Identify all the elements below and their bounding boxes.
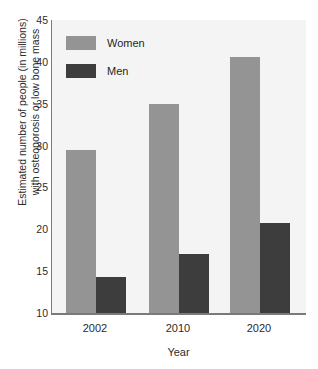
legend: Women Men <box>66 36 145 78</box>
bar-group-2020 <box>224 20 296 313</box>
bar-men-2020 <box>260 223 290 313</box>
y-tick-label-15: 15 <box>26 266 48 276</box>
x-tick-label-2002: 2002 <box>60 322 130 334</box>
x-axis-line <box>51 313 306 315</box>
y-tick-label-45: 45 <box>26 15 48 25</box>
y-tick-label-10: 10 <box>26 308 48 318</box>
y-tick-label-30: 30 <box>26 141 48 151</box>
bar-chart: Estimated number of people (in millions)… <box>0 0 318 369</box>
x-tick-label-2010: 2010 <box>143 322 213 334</box>
bar-men-2002 <box>96 277 126 313</box>
x-axis-title: Year <box>51 346 306 358</box>
legend-label-women: Women <box>107 37 145 49</box>
y-tick-label-20: 20 <box>26 224 48 234</box>
bar-men-2010 <box>179 254 209 313</box>
legend-swatch-men-icon <box>66 64 96 78</box>
legend-entry-men: Men <box>66 64 145 78</box>
y-tick-label-35: 35 <box>26 99 48 109</box>
x-tick-label-2020: 2020 <box>224 322 294 334</box>
bar-women-2020 <box>230 57 260 313</box>
bar-women-2002 <box>66 150 96 313</box>
legend-entry-women: Women <box>66 36 145 50</box>
legend-swatch-women-icon <box>66 36 96 50</box>
legend-label-men: Men <box>107 65 128 77</box>
bar-women-2010 <box>149 104 179 313</box>
bar-group-2010 <box>143 20 215 313</box>
y-tick-label-25: 25 <box>26 182 48 192</box>
y-axis-tick-labels: 4540353025201510 <box>26 20 48 313</box>
y-tick-label-40: 40 <box>26 57 48 67</box>
